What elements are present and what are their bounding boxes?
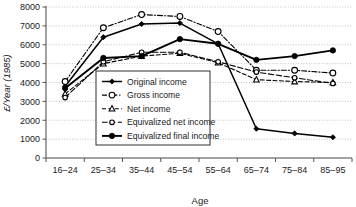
y-tick-label: 2000 [20, 116, 40, 126]
data-point-marker [292, 75, 297, 80]
data-point-marker [292, 131, 297, 136]
y-tick-label: 6000 [20, 40, 40, 50]
data-point-marker [101, 55, 106, 60]
data-point-marker [254, 57, 259, 62]
data-point-marker [139, 12, 145, 18]
y-tick-label: 4000 [20, 78, 40, 88]
data-point-marker [330, 70, 336, 76]
y-tick-label: 8000 [20, 2, 40, 12]
data-point-marker [139, 53, 144, 58]
y-tick-labels: 010002000300040005000600070008000 [20, 2, 40, 163]
legend-item-label: Equivalized final income [127, 131, 219, 141]
chart-legend: Original incomeGross incomeNet incomeEqu… [96, 71, 219, 145]
x-tick-label: 75–84 [282, 165, 307, 175]
y-tick-label: 3000 [20, 97, 40, 107]
legend-item-label: Equivalized net income [127, 117, 216, 127]
x-tick-label: 65–74 [244, 165, 269, 175]
x-tick-label: 35–44 [129, 165, 154, 175]
x-axis-title: Age [192, 195, 209, 206]
data-point-marker [216, 59, 221, 64]
y-tick-label: 0 [35, 153, 40, 163]
data-point-marker [62, 85, 67, 90]
data-point-marker [100, 25, 106, 31]
y-axis-title: £/Year (1985) [1, 54, 12, 113]
data-point-marker [109, 133, 114, 138]
data-point-marker [292, 67, 298, 73]
data-point-marker [215, 29, 221, 35]
data-point-marker [178, 50, 183, 55]
legend-item-label: Gross income [127, 90, 180, 100]
data-point-marker [331, 81, 336, 86]
data-point-marker [177, 36, 182, 41]
data-point-marker [215, 41, 220, 46]
data-point-marker [292, 53, 297, 58]
data-point-marker [63, 95, 68, 100]
data-point-marker [62, 79, 68, 85]
legend-item-label: Original income [127, 77, 187, 87]
y-tick-label: 1000 [20, 134, 40, 144]
x-tick-labels: 16–2425–3435–4445–5455–6465–7475–8485–95 [53, 165, 346, 175]
data-point-marker [254, 77, 260, 82]
legend-item-label: Net income [127, 104, 171, 114]
y-tick-label: 7000 [20, 21, 40, 31]
data-point-marker [109, 92, 115, 98]
x-tick-label: 25–34 [91, 165, 116, 175]
x-tick-label: 85–95 [320, 165, 345, 175]
x-tick-label: 45–54 [167, 165, 192, 175]
data-point-marker [254, 126, 259, 131]
y-tick-label: 5000 [20, 59, 40, 69]
chart-svg: 010002000300040005000600070008000 16–242… [0, 0, 356, 207]
x-tick-label: 55–64 [206, 165, 231, 175]
income-by-age-line-chart: 010002000300040005000600070008000 16–242… [0, 0, 356, 207]
data-point-marker [254, 70, 259, 75]
x-tick-label: 16–24 [53, 165, 78, 175]
data-point-marker [330, 48, 335, 53]
data-point-marker [110, 120, 115, 125]
data-point-marker [177, 14, 183, 20]
